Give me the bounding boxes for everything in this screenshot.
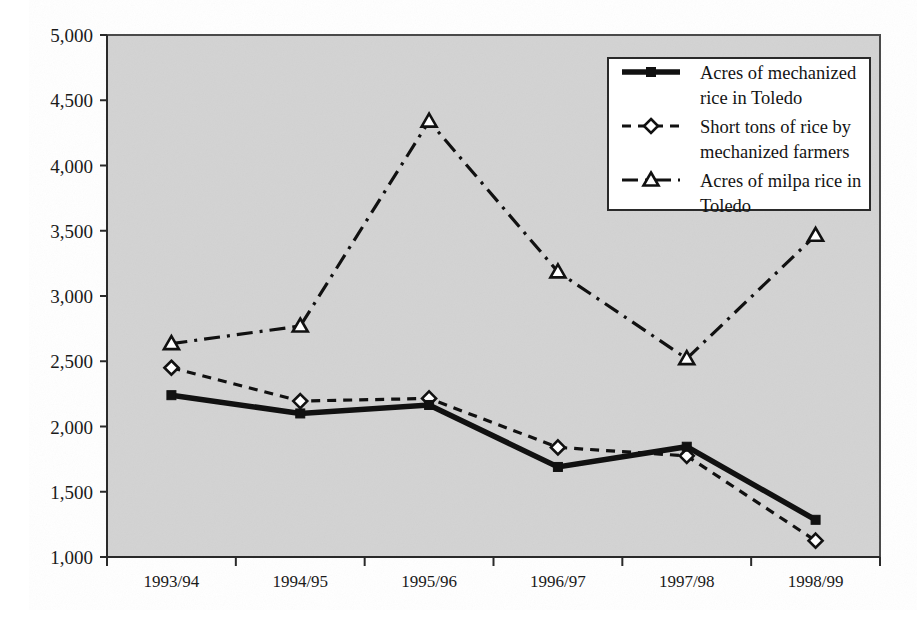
y-tick-label: 4,000 (50, 156, 93, 177)
y-tick-label: 2,500 (50, 351, 93, 372)
legend-label-line1: Short tons of rice by (700, 117, 852, 137)
x-tick-label: 1998/99 (788, 572, 844, 591)
y-tick-label: 5,000 (50, 25, 93, 46)
x-tick-label: 1993/94 (144, 572, 200, 591)
legend-label-line1: Acres of milpa rice in (700, 171, 861, 191)
legend: Acres of mechanizedrice in ToledoShort t… (608, 58, 870, 216)
data-point-square-marker (167, 391, 176, 400)
y-tick-label: 3,000 (50, 286, 93, 307)
x-tick-label: 1996/97 (530, 572, 586, 591)
x-tick-label: 1997/98 (659, 572, 715, 591)
legend-label-line2: mechanized farmers (700, 142, 849, 162)
chart-container: 1,0001,5002,0002,5003,0003,5004,0004,500… (0, 0, 917, 623)
legend-label-line1: Acres of mechanized (700, 63, 857, 83)
data-point-square-marker (811, 515, 820, 524)
data-point-square-marker (553, 462, 562, 471)
x-axis-labels: 1993/941994/951995/961996/971997/981998/… (144, 572, 844, 591)
legend-label-line2: Toledo (700, 196, 751, 216)
y-tick-label: 4,500 (50, 90, 93, 111)
data-point-square-marker (682, 442, 691, 451)
y-tick-label: 3,500 (50, 221, 93, 242)
y-tick-label: 1,500 (50, 482, 93, 503)
data-point-square-marker (296, 409, 305, 418)
y-axis-ticks: 1,0001,5002,0002,5003,0003,5004,0004,500… (50, 25, 107, 568)
y-tick-label: 2,000 (50, 417, 93, 438)
x-tick-label: 1995/96 (401, 572, 457, 591)
data-point-square-marker (425, 400, 434, 409)
line-chart: 1,0001,5002,0002,5003,0003,5004,0004,500… (0, 0, 917, 623)
data-point-square-marker (647, 68, 656, 77)
y-tick-label: 1,000 (50, 547, 93, 568)
x-tick-label: 1994/95 (272, 572, 328, 591)
x-axis-ticks (107, 557, 880, 566)
legend-label-line2: rice in Toledo (700, 88, 802, 108)
